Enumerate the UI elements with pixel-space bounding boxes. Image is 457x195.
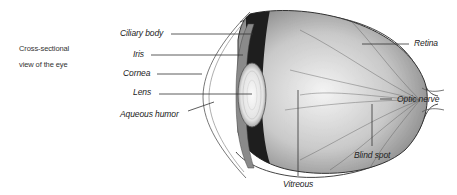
label-iris: Iris (133, 49, 144, 59)
lens-shape (238, 63, 266, 127)
label-optic-nerve: Optic nerve (397, 94, 439, 104)
label-cornea: Cornea (123, 68, 150, 78)
label-lens: Lens (133, 87, 151, 97)
label-retina: Retina (414, 38, 438, 48)
eye-diagram (0, 0, 457, 195)
label-blind-spot: Blind spot (354, 150, 390, 160)
label-vitreous: Vitreous (283, 179, 313, 189)
label-aqueous-humor: Aqueous humor (120, 109, 179, 119)
label-ciliary-body: Ciliary body (120, 28, 163, 38)
